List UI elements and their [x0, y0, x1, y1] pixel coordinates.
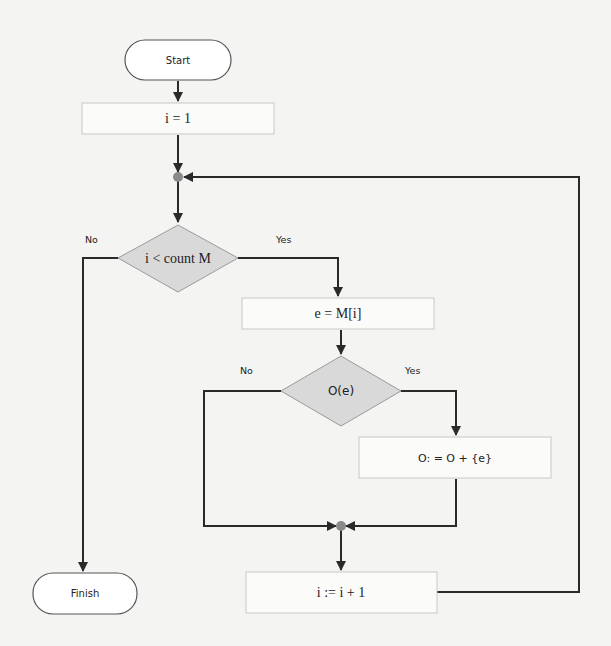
init-label: i = 1	[165, 111, 191, 126]
check-yes-label: Yes	[404, 365, 420, 376]
assign-e-label: e = M[i]	[315, 306, 362, 321]
node-add-to-o[interactable]: O: = O + {e}	[359, 437, 551, 478]
node-check-o[interactable]: O(e)	[281, 356, 401, 426]
loop-no-label: No	[85, 234, 98, 245]
node-increment[interactable]: i := i + 1	[246, 572, 437, 613]
finish-label: Finish	[71, 588, 99, 599]
flowchart-canvas: Start i = 1 i < count M No Yes e = M[i] …	[0, 0, 611, 646]
junction-top	[173, 172, 183, 182]
loop-yes-label: Yes	[275, 234, 291, 245]
edge-loop-no-to-finish	[83, 258, 118, 571]
node-init[interactable]: i = 1	[82, 103, 274, 134]
start-label: Start	[166, 55, 191, 66]
node-start[interactable]: Start	[125, 40, 231, 80]
edges	[83, 81, 579, 592]
edge-loop-yes-to-assign	[238, 258, 338, 296]
add-to-o-label: O: = O + {e}	[418, 452, 492, 465]
node-assign-e[interactable]: e = M[i]	[242, 298, 434, 329]
edge-check-yes-to-add	[401, 391, 456, 435]
node-loop-check[interactable]: i < count M	[118, 225, 238, 292]
check-no-label: No	[240, 365, 253, 376]
edge-add-to-junction	[346, 479, 456, 526]
check-o-label: O(e)	[328, 384, 354, 398]
junction-bottom	[336, 521, 346, 531]
node-finish[interactable]: Finish	[33, 573, 137, 614]
increment-label: i := i + 1	[317, 585, 365, 600]
loop-check-label: i < count M	[145, 251, 211, 266]
